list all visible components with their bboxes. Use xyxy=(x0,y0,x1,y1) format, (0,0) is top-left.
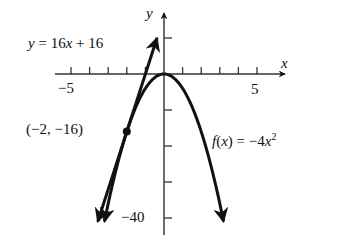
y-axis xyxy=(164,13,172,235)
y-axis-ticks xyxy=(164,38,172,218)
graph-canvas: x y −5 5 −40 (−2, −16) y = 16x + 16 f(x)… xyxy=(0,0,339,247)
x-tick-label-min: −5 xyxy=(58,80,74,96)
tangent-point-marker xyxy=(123,128,131,136)
tangent-point-label: (−2, −16) xyxy=(26,121,83,138)
fn-exponent: 2 xyxy=(271,131,276,142)
eq-y: y xyxy=(26,35,35,51)
eq-coef: = 16 xyxy=(35,35,66,51)
y-tick-label-min: −40 xyxy=(121,209,144,225)
fn-coef: ) = −4 xyxy=(228,133,265,150)
x-axis xyxy=(55,67,285,74)
y-axis-label: y xyxy=(144,5,153,21)
x-axis-label: x xyxy=(280,55,288,71)
parabola-equation: f(x) = −4x2 xyxy=(212,131,276,150)
eq-const: + 16 xyxy=(72,35,103,51)
x-tick-label-max: 5 xyxy=(251,81,259,97)
tangent-line-equation: y = 16x + 16 xyxy=(26,35,104,51)
